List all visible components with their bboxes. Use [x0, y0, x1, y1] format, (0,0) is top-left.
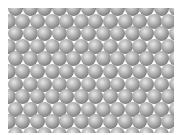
- sphere-lattice-image: [0, 0, 180, 135]
- sphere: [23, 127, 38, 133]
- sphere: [96, 127, 111, 133]
- lattice-area: [8, 8, 174, 133]
